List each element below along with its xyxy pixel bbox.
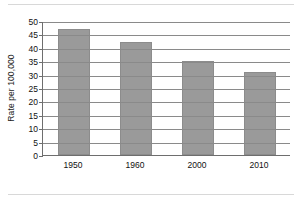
gridline <box>43 143 290 144</box>
x-axis-tick-label: 1950 <box>64 160 83 170</box>
gridline <box>43 49 290 50</box>
y-axis-tick <box>39 129 43 130</box>
y-axis-tick-label: 45 <box>29 31 38 40</box>
page-rule-bottom <box>8 194 294 195</box>
y-axis-tick <box>39 102 43 103</box>
y-axis-tick <box>39 76 43 77</box>
y-axis-tick <box>39 116 43 117</box>
gridline <box>43 116 290 117</box>
y-axis-tick <box>39 49 43 50</box>
gridline <box>43 102 290 103</box>
x-axis-tick-label: 1960 <box>126 160 145 170</box>
y-axis-tick <box>39 89 43 90</box>
y-axis-tick <box>39 22 43 23</box>
y-axis-tick <box>39 156 43 157</box>
y-axis-tick-label: 5 <box>33 138 38 147</box>
gridline <box>43 129 290 130</box>
y-axis-tick <box>39 62 43 63</box>
page-rule-top <box>8 4 294 5</box>
y-axis-title-text: Rate per 100,000 <box>6 54 16 121</box>
y-axis-tick-label: 40 <box>29 45 38 54</box>
y-axis-tick <box>39 143 43 144</box>
y-axis-tick-label: 35 <box>29 58 38 67</box>
x-axis-tick-label: 2010 <box>250 160 269 170</box>
plot-area <box>42 22 290 156</box>
x-axis-tick-labels: 1950196020002010 <box>42 160 290 176</box>
y-axis-tick-label: 10 <box>29 125 38 134</box>
x-axis-tick-label: 2000 <box>188 160 207 170</box>
gridline <box>43 22 290 23</box>
bar <box>120 42 152 155</box>
y-axis-tick-label: 50 <box>29 18 38 27</box>
gridline <box>43 89 290 90</box>
y-axis-tick <box>39 35 43 36</box>
y-axis-title: Rate per 100,000 <box>4 14 18 162</box>
gridline <box>43 76 290 77</box>
y-axis-tick-labels: 05101520253035404550 <box>18 22 38 156</box>
y-axis-tick-label: 20 <box>29 98 38 107</box>
y-axis-tick-label: 0 <box>33 152 38 161</box>
y-axis-tick-label: 15 <box>29 112 38 121</box>
y-axis-tick-label: 25 <box>29 85 38 94</box>
bar-chart-figure: Rate per 100,000 05101520253035404550 19… <box>0 14 302 190</box>
gridline <box>43 35 290 36</box>
gridline <box>43 62 290 63</box>
y-axis-tick-label: 30 <box>29 71 38 80</box>
